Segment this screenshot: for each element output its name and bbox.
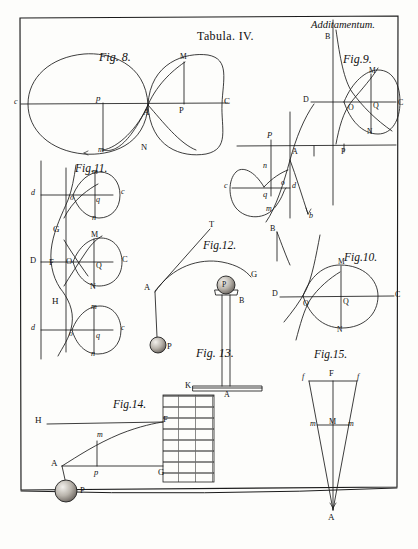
ball-fig12	[150, 337, 166, 353]
fig15-label-f-left: f	[302, 373, 304, 381]
fig11-label-O: O	[66, 257, 72, 266]
fig11-label-o-bot: o	[69, 330, 73, 338]
fig9-caption: Fig.9.	[343, 53, 372, 65]
engraved-plate: Tabula. IV. Additamentum. Fig. 8. c p A …	[0, 0, 418, 549]
fig11-label-d-bot: d	[31, 324, 35, 332]
fig12-label-P: P	[167, 342, 172, 351]
fig14-label-G: G	[158, 468, 164, 477]
fig11-label-n-top: n	[92, 214, 96, 222]
fig9-label-Q: Q	[373, 102, 379, 110]
fig12-label-T: T	[209, 220, 214, 229]
fig9-label-O: O	[348, 104, 354, 112]
fig13-label-P: P	[222, 281, 226, 289]
fig12-label-A: A	[144, 283, 150, 292]
fig11-label-d-top: d	[31, 189, 35, 197]
fig9-label-c: c	[224, 182, 228, 190]
fig10-caption: Fig.10.	[344, 252, 377, 264]
fig8-caption: Fig. 8.	[99, 51, 131, 63]
fig9-label-M: M	[369, 67, 376, 75]
plate-header-additamentum: Additamentum.	[311, 20, 375, 31]
fig14-label-H: H	[35, 416, 42, 425]
fig11-label-N: N	[90, 283, 96, 291]
fig11-label-C: C	[122, 255, 128, 264]
fig11-label-o-top: o	[70, 194, 74, 202]
fig9-label-o: o	[281, 179, 285, 187]
fig14-label-A: A	[51, 459, 58, 468]
fig11-label-m-bot: m	[91, 303, 97, 311]
fig11-label-G: G	[53, 225, 60, 234]
plate-drawing	[0, 0, 418, 549]
fig8-label-A: A	[143, 108, 150, 117]
fig15-label-M: M	[329, 418, 336, 426]
fig9-label-q: q	[263, 190, 267, 199]
fig15-label-f-right: f	[357, 373, 359, 381]
fig8-label-P: P	[179, 106, 184, 115]
fig8-label-N: N	[141, 143, 147, 152]
fig9-label-n: n	[263, 162, 267, 170]
fig11-label-Q: Q	[96, 262, 102, 270]
fig15-label-m-right: m	[348, 420, 354, 428]
fig13-caption: Fig. 13.	[196, 347, 234, 359]
fig15-label-F: F	[329, 369, 334, 378]
fig14-label-m: m	[97, 431, 103, 439]
plate-title: Tabula. IV.	[197, 30, 254, 42]
fig10-label-M: M	[338, 258, 345, 266]
fig9-label-d: d	[292, 182, 296, 190]
ball-fig14	[55, 480, 77, 502]
fig10-label-C: C	[395, 291, 400, 299]
fig8-label-C: C	[224, 97, 230, 106]
fig11-label-n-bot: n	[91, 350, 95, 358]
fig9-label-C: C	[398, 99, 403, 107]
fig10-label-Q: Q	[343, 298, 349, 306]
fig14-label-F: F	[163, 415, 168, 424]
fig8-label-c: c	[14, 98, 18, 106]
fig8-label-M: M	[180, 53, 187, 61]
fig11-label-q-top: q	[96, 196, 100, 204]
fig15-caption: Fig.15.	[314, 349, 347, 361]
fig10-label-D: D	[272, 290, 278, 298]
fig9-label-P-right: P	[341, 148, 345, 156]
fig11-label-F: F	[49, 258, 54, 267]
fig12-label-G: G	[251, 270, 257, 279]
fig10-label-N: N	[337, 326, 342, 334]
fig11-label-D: D	[30, 256, 36, 265]
fig14-label-P: P	[80, 486, 85, 495]
fig11-label-c-bot: c	[121, 324, 125, 332]
fig11-label-H: H	[52, 297, 59, 306]
fig11-label-m-top: m	[92, 168, 98, 176]
fig14-label-p: p	[94, 468, 98, 477]
fig9-label-A: A	[292, 148, 298, 156]
fig9-label-P-left: P	[267, 131, 272, 140]
fig9-label-m: m	[266, 205, 272, 213]
fig10-label-O: O	[303, 300, 309, 308]
fig9-label-B-lower: B	[270, 225, 275, 233]
fig13-label-B: B	[239, 297, 244, 305]
fig13-label-A: A	[224, 391, 230, 399]
fig8-label-p: p	[96, 94, 101, 103]
fig15-label-m-left: m	[310, 420, 316, 428]
fig11-label-c-top: c	[121, 188, 125, 196]
fig9-label-D: D	[303, 96, 309, 104]
fig12-caption: Fig.12.	[203, 240, 236, 252]
fig11-label-q-bot: q	[96, 332, 100, 340]
fig15-label-A: A	[328, 513, 335, 522]
fig9-label-N: N	[367, 128, 372, 136]
fig8-label-m: m	[98, 146, 104, 154]
fig14-label-K: K	[185, 381, 191, 390]
fig9-label-B: B	[325, 33, 330, 41]
fig14-caption: Fig.14.	[113, 399, 146, 411]
fig11-label-M: M	[91, 231, 98, 239]
fig9-label-b: b	[309, 212, 313, 220]
